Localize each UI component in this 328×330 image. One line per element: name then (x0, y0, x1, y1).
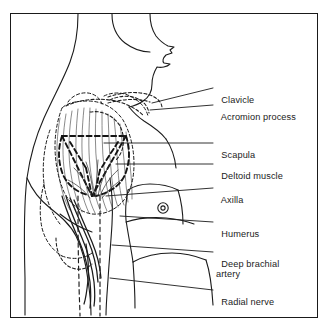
label-acromion-process: Acromion process (216, 101, 296, 122)
leader-radial-nerve (110, 278, 213, 290)
label-humerus: Humerus (216, 218, 259, 239)
leader-axilla (106, 188, 213, 196)
nipple-marker (158, 203, 168, 213)
label-radial-nerve: Radial nerve (216, 286, 274, 307)
label-scapula: Scapula (216, 139, 255, 160)
chest-front-outline (126, 107, 213, 308)
scapula-bone-outline (59, 136, 129, 196)
label-axilla: Axilla (216, 184, 243, 205)
leader-acromion (150, 105, 213, 110)
label-deltoid-muscle: Deltoid muscle (216, 160, 283, 181)
leader-deep-brachial (112, 245, 213, 252)
deltoid-fiber-hatching (57, 108, 132, 213)
label-deep-brachial-artery: Deep brachialartery (216, 248, 279, 280)
deltoid-muscle-outline (40, 93, 148, 259)
leader-humerus (120, 216, 213, 222)
leader-lines (104, 88, 213, 290)
leader-clavicle (152, 88, 213, 103)
